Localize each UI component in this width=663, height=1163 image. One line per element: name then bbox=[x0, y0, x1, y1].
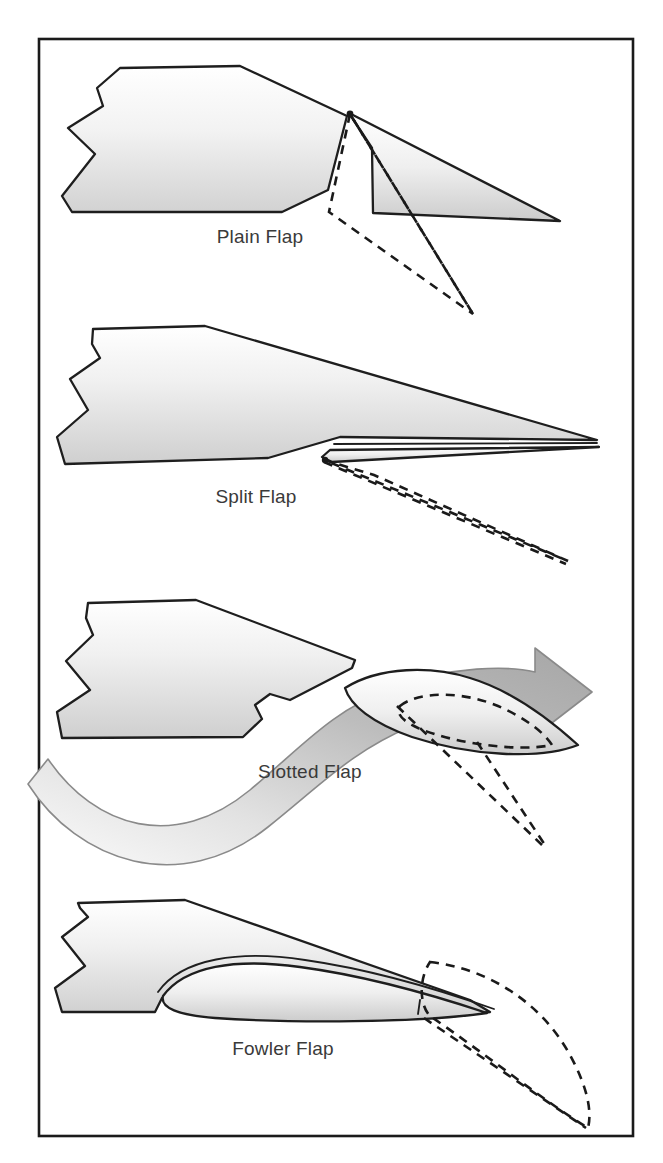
panel-slotted-flap: Slotted Flap bbox=[28, 600, 592, 865]
panel-fowler-flap: Fowler Flap bbox=[55, 900, 589, 1128]
deflection-ray-fowler bbox=[424, 1018, 586, 1128]
panel-label-fowler-flap: Fowler Flap bbox=[232, 1038, 333, 1059]
panel-plain-flap: Plain Flap bbox=[62, 66, 560, 314]
panel-label-split-flap: Split Flap bbox=[215, 486, 296, 507]
deflected-outline-fowler bbox=[422, 962, 590, 1128]
flap-element-plain bbox=[349, 113, 560, 221]
flap-types-figure: Plain Flap Split Flap bbox=[0, 0, 663, 1163]
flap-element-split bbox=[322, 447, 599, 462]
wing-body-slotted bbox=[57, 600, 355, 738]
panel-split-flap: Split Flap bbox=[57, 326, 599, 564]
panel-label-slotted-flap: Slotted Flap bbox=[258, 761, 362, 782]
flap-diagram-canvas: Plain Flap Split Flap bbox=[0, 0, 663, 1163]
split-slot-line bbox=[334, 443, 597, 444]
deflected-lower-split bbox=[324, 462, 566, 564]
deflected-outline-split bbox=[324, 460, 568, 561]
wing-body-plain bbox=[62, 66, 347, 212]
deflection-ray-slotted-b bbox=[477, 742, 545, 845]
panel-label-plain-flap: Plain Flap bbox=[217, 226, 304, 247]
